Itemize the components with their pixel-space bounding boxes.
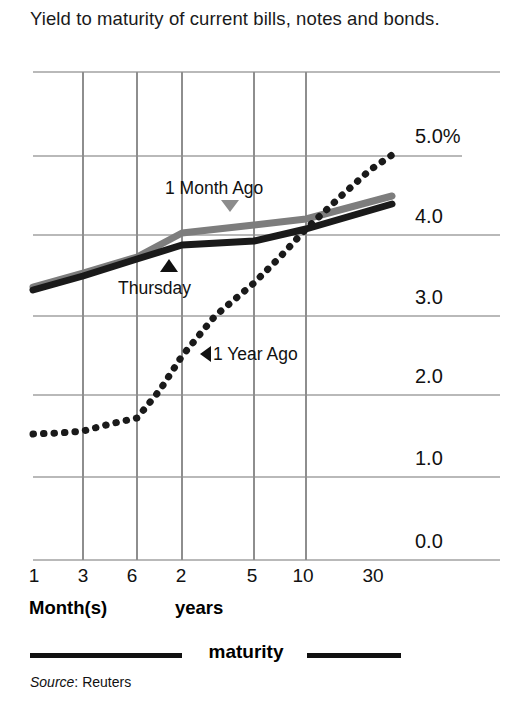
y-tick-3: 3.0: [415, 286, 443, 309]
y-tick-2: 2.0: [415, 365, 443, 388]
triangle-left-icon: [200, 346, 211, 362]
x-tick-30yr: 30: [362, 565, 383, 587]
legend-label-maturity: maturity: [190, 641, 302, 663]
y-tick-0: 0.0: [415, 530, 443, 553]
x-tick-5yr: 5: [247, 565, 258, 587]
page-title: Yield to maturity of current bills, note…: [30, 6, 450, 31]
source-label: Source: [30, 674, 74, 690]
x-axis-caption-years: years: [175, 597, 223, 619]
x-tick-1mo: 1: [29, 565, 40, 587]
x-tick-10yr: 10: [292, 565, 313, 587]
triangle-down-icon: [221, 200, 239, 212]
y-tick-4: 4.0: [415, 205, 443, 228]
x-tick-6mo: 6: [127, 565, 138, 587]
source-value: : Reuters: [74, 674, 131, 690]
x-tick-3mo: 3: [78, 565, 89, 587]
maturity-legend: maturity: [30, 645, 430, 667]
legend-rule-left: [30, 653, 182, 658]
series-line-thursday: [33, 204, 392, 290]
y-tick-5: 5.0%: [415, 125, 461, 148]
y-tick-1: 1.0: [415, 447, 443, 470]
annotation-one-month-ago: 1 Month Ago: [165, 178, 263, 199]
annotation-one-year-ago: 1 Year Ago: [213, 344, 298, 365]
vertical-gridlines: [83, 72, 306, 560]
x-axis-caption-months: Month(s): [29, 597, 107, 619]
source-line: Source: Reuters: [30, 674, 131, 690]
annotation-thursday: Thursday: [118, 278, 191, 299]
legend-rule-right: [307, 653, 401, 658]
triangle-up-icon: [160, 259, 178, 272]
chart-root: Yield to maturity of current bills, note…: [0, 0, 532, 712]
series-line-one-month-ago: [33, 196, 392, 287]
x-tick-2yr: 2: [176, 565, 187, 587]
